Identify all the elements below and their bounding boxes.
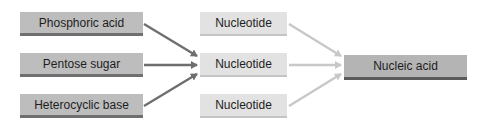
nucleotide-box-1: Nucleotide xyxy=(200,12,287,36)
nucleotide-label: Nucleotide xyxy=(215,98,272,112)
nucleotide-box-3: Nucleotide xyxy=(200,94,287,118)
nucleic-acid-label: Nucleic acid xyxy=(373,59,438,73)
source-box-phosphoric-acid: Phosphoric acid xyxy=(20,12,143,36)
nucleotide-label: Nucleotide xyxy=(215,16,272,30)
arrow-nucleotide1-to-nucleic-acid xyxy=(289,24,341,56)
source-label: Phosphoric acid xyxy=(39,16,124,30)
nucleotide-box-2: Nucleotide xyxy=(200,53,287,77)
source-box-pentose-sugar: Pentose sugar xyxy=(20,53,143,77)
nucleic-acid-box: Nucleic acid xyxy=(344,55,467,80)
arrow-base-to-nucleotide xyxy=(144,74,197,106)
source-label: Heterocyclic base xyxy=(34,98,129,112)
source-label: Pentose sugar xyxy=(43,57,120,71)
source-to-nucleotide-arrows xyxy=(144,24,197,106)
arrow-phosphoric-to-nucleotide xyxy=(144,24,197,56)
source-box-heterocyclic-base: Heterocyclic base xyxy=(20,94,143,118)
nucleotide-label: Nucleotide xyxy=(215,57,272,71)
nucleotide-to-nucleic-acid-arrows xyxy=(289,24,341,106)
arrow-nucleotide3-to-nucleic-acid xyxy=(289,74,341,106)
